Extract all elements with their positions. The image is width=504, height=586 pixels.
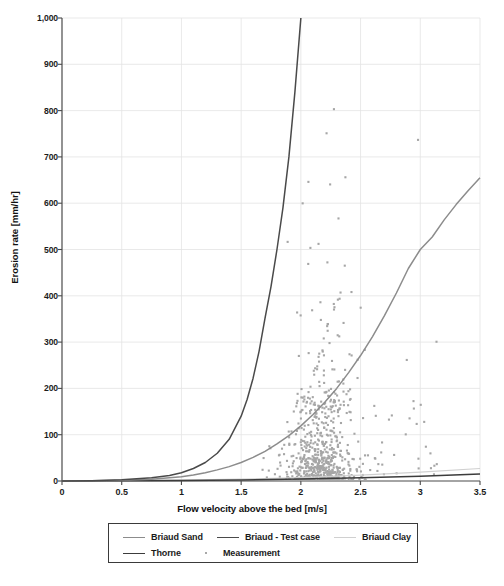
legend-item-briaud-test-case: Briaud - Test case: [217, 532, 320, 542]
y-tick-label: 200: [24, 383, 58, 393]
legend-line-swatch-briaud-sand: [123, 537, 145, 538]
x-tick-label: 0.5: [115, 487, 128, 497]
legend-label-measurement: Measurement: [223, 548, 280, 558]
legend-label-thorne: Thorne: [151, 548, 181, 558]
legend-item-measurement: Measurement: [195, 548, 280, 558]
x-tick-label: 2.5: [354, 487, 367, 497]
y-tick-label: 0: [24, 476, 58, 486]
tick-marks: [58, 18, 480, 485]
legend-row-1: Briaud Sand Briaud - Test case Briaud Cl…: [123, 529, 409, 545]
y-tick-label: 600: [24, 198, 58, 208]
legend-row-2: Thorne Measurement: [123, 545, 409, 561]
x-tick-label: 1: [179, 487, 184, 497]
legend-line-swatch-briaud-clay: [334, 537, 356, 538]
legend-label-briaud-clay: Briaud Clay: [362, 532, 411, 542]
legend-line-swatch-briaud-test-case: [217, 537, 239, 538]
x-axis-title: Flow velocity above the bed [m/s]: [0, 503, 504, 514]
x-tick-label: 0: [59, 487, 64, 497]
y-tick-label: 400: [24, 291, 58, 301]
x-tick-label: 3.5: [474, 487, 487, 497]
erosion-rate-chart-figure: 01002003004005006007008009001,000 00.511…: [0, 0, 504, 586]
chart-legend: Briaud Sand Briaud - Test case Briaud Cl…: [108, 523, 418, 563]
y-tick-label: 500: [24, 245, 58, 255]
y-tick-label: 800: [24, 106, 58, 116]
legend-label-briaud-test-case: Briaud - Test case: [245, 532, 320, 542]
x-tick-label: 2: [298, 487, 303, 497]
y-tick-label: 700: [24, 152, 58, 162]
y-tick-label: 900: [24, 59, 58, 69]
x-axis-tick-labels: 00.511.522.533.5: [0, 487, 504, 501]
y-axis-title: Erosion rate [mm/hr]: [9, 153, 20, 323]
x-tick-label: 1.5: [235, 487, 248, 497]
y-tick-label: 300: [24, 337, 58, 347]
legend-item-thorne: Thorne: [123, 548, 181, 558]
legend-dot-swatch-measurement: [195, 552, 217, 555]
x-tick-label: 3: [418, 487, 423, 497]
legend-line-swatch-thorne: [123, 553, 145, 554]
y-tick-label: 100: [24, 430, 58, 440]
legend-item-briaud-clay: Briaud Clay: [334, 532, 411, 542]
y-tick-label: 1,000: [24, 13, 58, 23]
legend-label-briaud-sand: Briaud Sand: [151, 532, 203, 542]
grid-lines: [62, 18, 480, 481]
legend-item-briaud-sand: Briaud Sand: [123, 532, 203, 542]
